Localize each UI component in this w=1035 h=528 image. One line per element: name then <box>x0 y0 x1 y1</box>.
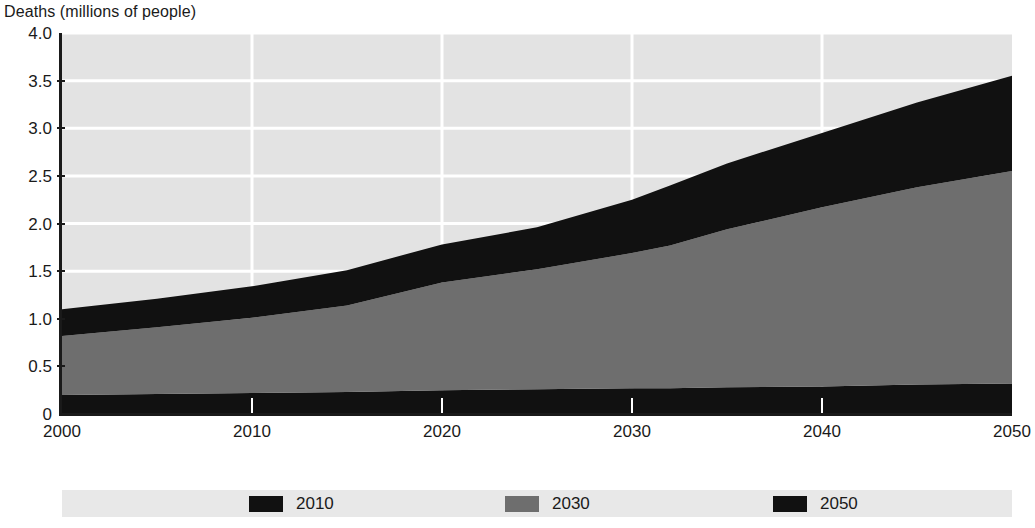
x-tick-label: 2050 <box>967 422 1035 442</box>
legend-item-2030[interactable]: 2030 <box>505 493 590 514</box>
x-tick-mark <box>631 398 633 413</box>
x-tick-mark <box>251 398 253 413</box>
legend: 201020302050 <box>62 490 1012 517</box>
legend-label-2050: 2050 <box>820 495 858 512</box>
x-tick-mark <box>441 398 443 413</box>
x-tick-mark <box>821 398 823 413</box>
x-tick-label: 2030 <box>587 422 677 442</box>
legend-label-2030: 2030 <box>552 495 590 512</box>
x-tick-label: 2020 <box>397 422 487 442</box>
x-tick-label: 2010 <box>207 422 297 442</box>
legend-swatch-2050 <box>773 496 807 512</box>
x-tick-label: 2000 <box>17 422 107 442</box>
legend-label-2010: 2010 <box>296 495 334 512</box>
legend-swatch-2010 <box>249 496 283 512</box>
legend-item-2010[interactable]: 2010 <box>249 493 334 514</box>
x-tick-label: 2040 <box>777 422 867 442</box>
legend-item-2050[interactable]: 2050 <box>773 493 858 514</box>
legend-swatch-2030 <box>505 496 539 512</box>
